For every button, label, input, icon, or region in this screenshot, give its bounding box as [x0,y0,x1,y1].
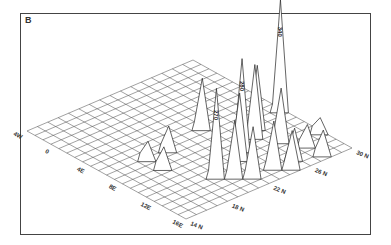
svg-text:30 N: 30 N [356,149,370,159]
svg-text:0: 0 [44,148,50,155]
surface-plot: 340280270 4W04E8E12E16E14 N18 N22 N26 N3… [0,0,391,245]
svg-text:14 N: 14 N [190,220,204,230]
svg-text:18 N: 18 N [231,203,245,213]
svg-text:16E: 16E [172,219,184,229]
svg-text:12E: 12E [140,201,152,211]
svg-text:4E: 4E [76,166,85,175]
svg-text:270: 270 [213,110,219,121]
spikes: 340280270 [138,0,332,179]
svg-text:26 N: 26 N [314,167,328,177]
svg-text:280: 280 [239,81,245,92]
svg-text:8E: 8E [108,183,117,192]
svg-text:340: 340 [277,27,283,38]
svg-text:4W: 4W [13,131,24,141]
svg-text:22 N: 22 N [273,185,287,195]
